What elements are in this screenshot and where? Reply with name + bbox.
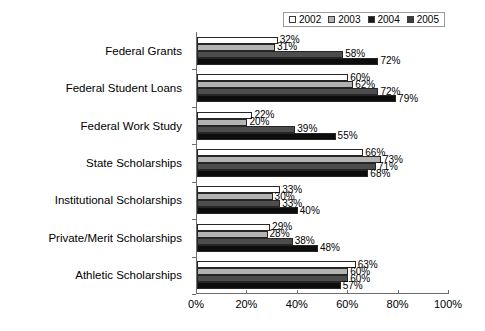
bar[interactable] (197, 224, 270, 231)
y-axis-tick (192, 107, 196, 108)
bar[interactable] (197, 58, 378, 65)
bar-value-label: 40% (298, 206, 320, 216)
bar[interactable] (197, 200, 280, 207)
y-axis-tick (192, 144, 196, 145)
x-axis-tick (196, 290, 197, 294)
bar-value-label: 79% (396, 94, 418, 104)
bar-group: 63%60%60%57% (197, 261, 448, 289)
bar[interactable] (197, 81, 353, 88)
bar[interactable] (197, 186, 280, 193)
bar-row: 60% (197, 74, 449, 81)
bar[interactable] (197, 275, 348, 282)
bar-row: 62% (197, 81, 449, 88)
plot-area: 32%31%58%72%60%62%72%79%22%20%39%55%66%7… (196, 32, 448, 294)
bar[interactable] (197, 37, 278, 44)
legend-item-2002: 2002 (289, 15, 321, 25)
legend-item-label: 2002 (299, 15, 321, 25)
legend-swatch-icon (368, 16, 375, 23)
bar[interactable] (197, 88, 378, 95)
category-label: Athletic Scholarships (75, 269, 182, 282)
bar-row: 33% (197, 186, 449, 193)
bar-row: 30% (197, 193, 449, 200)
bar-row: 57% (197, 282, 449, 289)
chart-legend: 2002200320042005 (283, 12, 445, 27)
bar-row: 32% (197, 37, 449, 44)
y-axis-tick (192, 257, 196, 258)
legend-item-label: 2005 (417, 15, 439, 25)
bar-group: 22%20%39%55% (197, 112, 448, 140)
legend-item-2005: 2005 (407, 15, 439, 25)
bar[interactable] (197, 245, 318, 252)
bar-row: 31% (197, 44, 449, 51)
bar-value-label: 55% (336, 131, 358, 141)
x-axis-tick-label: 0% (188, 298, 204, 311)
category-label: Private/Merit Scholarships (48, 231, 182, 244)
legend-item-2003: 2003 (328, 15, 360, 25)
bar[interactable] (197, 163, 376, 170)
category-label: Federal Student Loans (66, 82, 182, 95)
legend-swatch-icon (328, 16, 335, 23)
y-axis-tick (192, 182, 196, 183)
x-axis-tick-label: 100% (434, 298, 462, 311)
bar[interactable] (197, 261, 356, 268)
bar-row: 72% (197, 58, 449, 65)
bar[interactable] (197, 95, 396, 102)
value-axis-labels: 0%20%40%60%80%100% (196, 298, 448, 314)
bar-value-label: 72% (378, 56, 400, 66)
y-axis-tick (192, 294, 196, 295)
bar-row: 29% (197, 224, 449, 231)
bar-group: 32%31%58%72% (197, 37, 448, 65)
bar-value-label: 68% (368, 169, 390, 179)
bar[interactable] (197, 149, 363, 156)
bar-row: 68% (197, 170, 449, 177)
bar[interactable] (197, 268, 348, 275)
y-axis-tick (192, 219, 196, 220)
bar-group: 33%30%33%40% (197, 186, 448, 214)
bar[interactable] (197, 119, 247, 126)
bar-row: 63% (197, 261, 449, 268)
bar[interactable] (197, 231, 268, 238)
x-axis-tick (246, 290, 247, 294)
bar[interactable] (197, 51, 343, 58)
bar-row: 60% (197, 268, 449, 275)
bar[interactable] (197, 133, 336, 140)
x-axis-tick-label: 20% (235, 298, 257, 311)
bar-row: 71% (197, 163, 449, 170)
x-axis-tick-label: 60% (336, 298, 358, 311)
bar[interactable] (197, 44, 275, 51)
category-axis-labels: Federal GrantsFederal Student LoansFeder… (0, 32, 190, 294)
bar-row: 22% (197, 112, 449, 119)
bar[interactable] (197, 238, 293, 245)
x-axis-line (196, 293, 448, 294)
y-axis-tick (192, 69, 196, 70)
x-axis-tick (398, 290, 399, 294)
bar-row: 58% (197, 51, 449, 58)
bar[interactable] (197, 112, 252, 119)
category-label: State Scholarships (86, 157, 182, 170)
bar-value-label: 48% (318, 243, 340, 253)
bar[interactable] (197, 156, 381, 163)
bar-group: 29%28%38%48% (197, 224, 448, 252)
bar[interactable] (197, 193, 273, 200)
category-label: Institutional Scholarships (55, 194, 182, 207)
bar-row: 73% (197, 156, 449, 163)
bar-row: 48% (197, 245, 449, 252)
bar-row: 33% (197, 200, 449, 207)
bar[interactable] (197, 170, 368, 177)
bar-chart: 2002200320042005 Federal GrantsFederal S… (0, 0, 485, 331)
x-axis-tick-label: 40% (286, 298, 308, 311)
bar-row: 55% (197, 133, 449, 140)
bar-group: 66%73%71%68% (197, 149, 448, 177)
bar-row: 40% (197, 207, 449, 214)
bar-value-label: 57% (341, 281, 363, 291)
bar[interactable] (197, 126, 295, 133)
x-axis-tick (448, 290, 449, 294)
legend-item-label: 2004 (378, 15, 400, 25)
bar[interactable] (197, 207, 298, 214)
legend-swatch-icon (289, 16, 296, 23)
bar[interactable] (197, 74, 348, 81)
bar[interactable] (197, 282, 341, 289)
bar-row: 79% (197, 95, 449, 102)
legend-item-label: 2003 (338, 15, 360, 25)
category-label: Federal Work Study (81, 119, 182, 132)
